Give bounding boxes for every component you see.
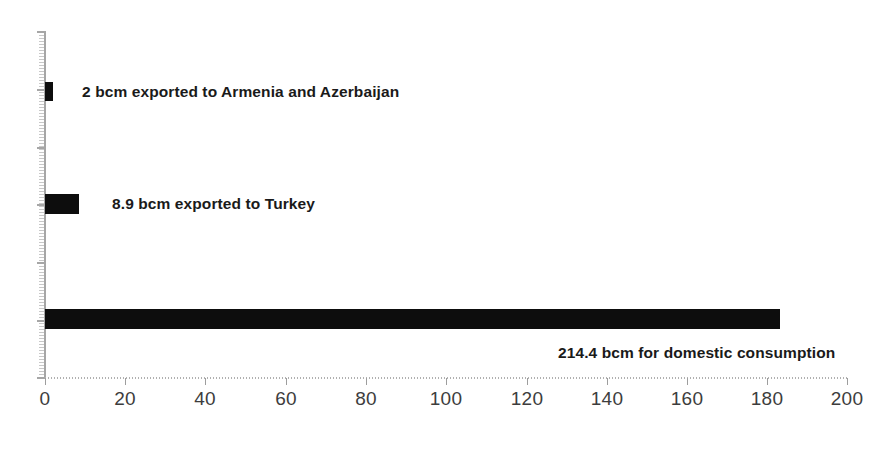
- y-axis-tick: [37, 320, 45, 322]
- x-axis-tick-120: [527, 378, 528, 385]
- y-axis-tick: [37, 204, 45, 206]
- bar-turkey: [45, 194, 79, 214]
- y-axis-tick: [37, 147, 45, 149]
- x-axis-label-200: 200: [831, 388, 863, 410]
- x-axis-tick-180: [767, 378, 768, 385]
- x-axis-tick-160: [687, 378, 688, 385]
- data-label-domestic-consumption: 214.4 bcm for domestic consumption: [558, 344, 835, 362]
- bar-domestic-consumption: [45, 309, 780, 329]
- x-axis-label-0: 0: [40, 388, 51, 410]
- y-axis-tick: [37, 262, 45, 264]
- x-axis-label-140: 140: [591, 388, 623, 410]
- y-axis-tick: [37, 377, 45, 379]
- x-axis-tick-200: [847, 378, 848, 385]
- x-axis-label-160: 160: [671, 388, 703, 410]
- y-axis-tick: [37, 31, 45, 33]
- x-axis-label-20: 20: [114, 388, 136, 410]
- x-axis-label-180: 180: [751, 388, 783, 410]
- y-axis-tick: [37, 89, 45, 91]
- x-axis-label-40: 40: [194, 388, 216, 410]
- x-axis-label-120: 120: [511, 388, 543, 410]
- data-label-armenia-azerbaijan: 2 bcm exported to Armenia and Azerbaijan: [82, 83, 399, 101]
- x-axis-label-60: 60: [275, 388, 297, 410]
- x-axis-label-100: 100: [430, 388, 462, 410]
- x-axis-tick-20: [125, 378, 126, 385]
- bar-chart: 0 20 40 60 80 100 120 140 160 180 200 2 …: [0, 0, 892, 451]
- x-axis-tick-60: [286, 378, 287, 385]
- data-label-turkey: 8.9 bcm exported to Turkey: [112, 195, 315, 213]
- x-axis-tick-40: [205, 378, 206, 385]
- x-axis-tick-0: [45, 378, 46, 385]
- x-axis-tick-140: [607, 378, 608, 385]
- bar-armenia-azerbaijan: [45, 82, 53, 101]
- x-axis-tick-100: [446, 378, 447, 385]
- x-axis-label-80: 80: [355, 388, 377, 410]
- x-axis-tick-80: [366, 378, 367, 385]
